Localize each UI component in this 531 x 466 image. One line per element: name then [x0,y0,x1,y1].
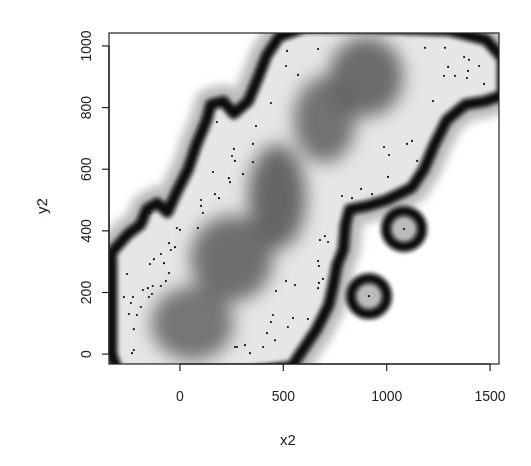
data-point [275,290,277,292]
data-point [153,258,155,260]
data-point [285,65,287,67]
data-point [454,75,456,77]
data-point [272,314,274,316]
data-point [368,295,370,297]
data-point [424,47,426,49]
data-point [152,285,154,287]
data-point [128,313,130,315]
data-point [406,143,408,145]
data-point [133,328,135,330]
data-point [463,56,465,58]
data-point [387,176,389,178]
data-point [319,239,321,241]
data-point [147,287,149,289]
data-point [229,181,231,183]
data-point [262,346,264,348]
x-tick-label: 500 [272,388,296,404]
data-point [168,272,170,274]
x-tick-label: 1000 [371,388,402,404]
data-point [292,317,294,319]
data-point [324,235,326,237]
data-point [200,205,202,207]
data-point [234,160,236,162]
y-tick-label: 800 [78,96,94,120]
data-point [212,171,214,173]
data-point [388,154,390,156]
density-plot-figure: 050010001500 02004006008001000 x2 y2 [0,0,531,466]
data-point [322,278,324,280]
data-point [126,273,128,275]
data-point [249,352,251,354]
data-point [285,280,287,282]
x-axis: 050010001500 [176,364,506,404]
data-point [149,212,151,214]
data-point [174,246,176,248]
data-point [468,59,470,61]
data-point [416,160,418,162]
data-point [444,47,446,49]
data-point [168,242,170,244]
plot-canvas: 050010001500 02004006008001000 x2 y2 [0,0,531,466]
data-point [179,229,181,231]
data-point [234,346,236,348]
data-point [216,121,218,123]
data-point [483,83,485,85]
data-point [317,260,319,262]
x-tick-label: 1500 [475,388,506,404]
data-point [160,285,162,287]
data-point [149,263,151,265]
data-point [351,197,353,199]
y-axis: 02004006008001000 [78,30,109,358]
data-point [467,70,469,72]
data-point [317,287,319,289]
data-point [131,352,133,354]
x-axis-label: x2 [280,431,296,448]
data-point [202,212,204,214]
data-point [286,50,288,52]
data-point [170,249,172,251]
data-point [160,253,162,255]
y-tick-label: 200 [78,281,94,305]
data-point [133,349,135,351]
data-point [151,293,153,295]
data-point [297,74,299,76]
data-point [307,318,309,320]
data-point [466,77,468,79]
data-point [327,241,329,243]
data-point [443,75,445,77]
data-point [130,302,132,304]
data-point [218,197,220,199]
data-point [123,296,125,298]
density-core [294,77,356,163]
data-point [231,155,233,157]
data-point [274,339,276,341]
x-tick-label: 0 [176,388,184,404]
y-tick-label: 600 [78,157,94,181]
data-point [403,228,405,230]
data-point [270,102,272,104]
data-point [360,188,362,190]
data-point [197,227,199,229]
data-point [200,199,202,201]
data-point [478,65,480,67]
data-point [383,146,385,148]
data-point [142,289,144,291]
data-point [214,193,216,195]
data-point [317,48,319,50]
data-point [252,143,254,145]
data-point [148,296,150,298]
data-point [163,262,165,264]
data-point [318,282,320,284]
y-tick-label: 0 [78,350,94,358]
image-field [109,28,503,373]
data-point [236,346,238,348]
data-point [294,284,296,286]
y-tick-label: 1000 [78,30,94,61]
density-core [151,286,234,360]
y-tick-label: 400 [78,219,94,243]
data-point [287,326,289,328]
data-point [341,195,343,197]
data-point [244,344,246,346]
data-point [136,314,138,316]
data-point [242,173,244,175]
